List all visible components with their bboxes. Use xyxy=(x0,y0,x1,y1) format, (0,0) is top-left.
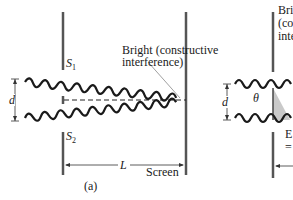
separation-d-label-b: d xyxy=(222,96,228,108)
distance-l-label: L xyxy=(120,159,127,171)
source-s2-label: S2 xyxy=(66,130,76,147)
wave-bottom-a xyxy=(25,98,177,122)
separation-d-label-a: d xyxy=(9,94,15,106)
angle-theta-label: θ xyxy=(253,92,259,104)
bright-label-b: Bri(cointe xyxy=(278,4,293,43)
figure-a-caption: (a) xyxy=(84,180,97,192)
screen-label: Screen xyxy=(146,166,179,178)
wave-top-a xyxy=(25,78,177,102)
path-difference-wedge xyxy=(273,88,290,120)
bottom-label-b: E= xyxy=(285,128,292,154)
wave-top-b xyxy=(235,80,291,88)
bright-label-a: Bright (constructiveinterference) xyxy=(122,44,218,68)
source-s1-label: S1 xyxy=(66,57,76,74)
